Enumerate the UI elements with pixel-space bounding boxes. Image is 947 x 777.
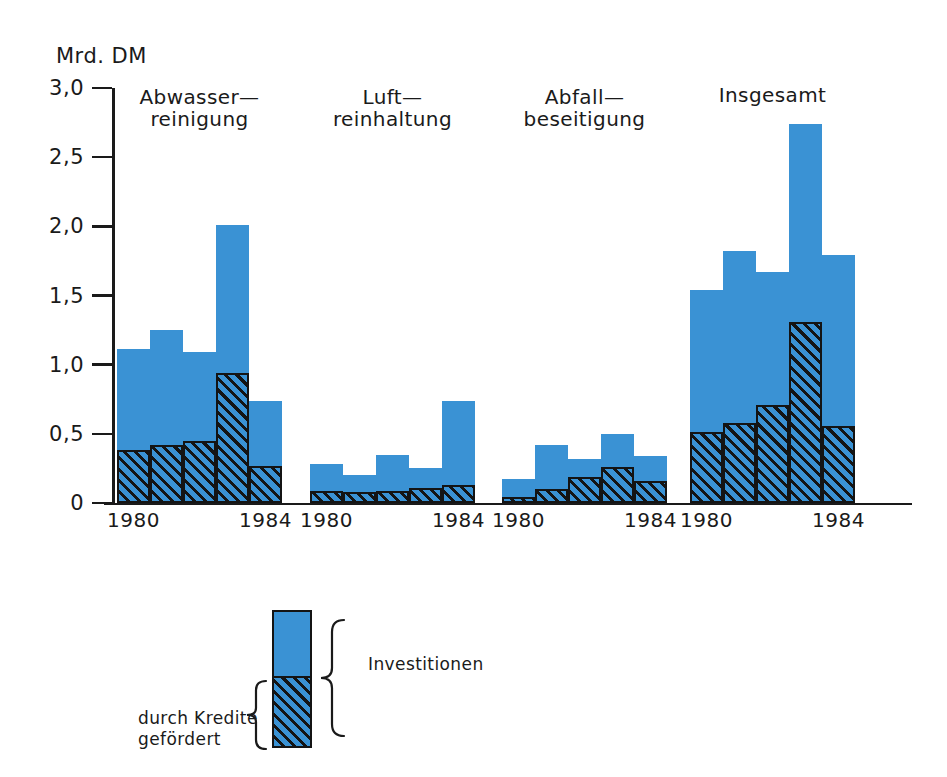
- bar-segment-gefoerdert: [568, 477, 601, 503]
- x-label-abfallbeseitigung-1980: 1980: [479, 508, 559, 532]
- y-tick-label: 0,5: [49, 422, 84, 446]
- bar-segment-gefoerdert: [409, 488, 442, 503]
- bar-segment-gefoerdert: [183, 441, 216, 503]
- chart-legend: Investitionen durch Kredite gefördert: [0, 596, 947, 766]
- bar-segment-gefoerdert: [535, 489, 568, 503]
- x-label-insgesamt-1984: 1984: [799, 508, 879, 532]
- bar-segment-gefoerdert: [690, 432, 723, 503]
- y-tick-0-5: 0,5: [92, 433, 112, 436]
- bar-segment-gefoerdert: [117, 450, 150, 503]
- y-tick-label: 0: [70, 491, 84, 515]
- y-tick-label: 3,0: [49, 76, 84, 100]
- y-tick-2-0: 2,0: [92, 225, 112, 228]
- y-tick-label: 2,5: [49, 145, 84, 169]
- y-tick-label: 1,0: [49, 353, 84, 377]
- bar-segment-gefoerdert: [442, 485, 475, 503]
- group-title-abwasserreinigung: Abwasser— reinigung: [90, 86, 310, 131]
- group-title-abfallbeseitigung: Abfall— beseitigung: [475, 86, 695, 131]
- legend-swatch-gefoerdert: [272, 676, 312, 748]
- y-axis-line: [112, 88, 115, 503]
- y-tick-label: 1,5: [49, 284, 84, 308]
- x-label-abwasserreinigung-1980: 1980: [94, 508, 174, 532]
- bar-segment-gefoerdert: [822, 426, 855, 503]
- legend-label-investitionen: Investitionen: [368, 654, 484, 675]
- brace-investitionen-icon: [318, 618, 348, 738]
- legend-label-gefoerdert: durch Kredite gefördert: [138, 708, 258, 751]
- x-label-insgesamt-1980: 1980: [667, 508, 747, 532]
- group-title-insgesamt: Insgesamt: [663, 84, 883, 106]
- x-label-luftreinhaltung-1980: 1980: [287, 508, 367, 532]
- y-tick-1-5: 1,5: [92, 294, 112, 297]
- bar-segment-gefoerdert: [216, 373, 249, 503]
- chart-page: Mrd. DM 00,51,01,52,02,53,0 Abwasser— re…: [0, 0, 947, 777]
- bar-segment-gefoerdert: [502, 497, 535, 503]
- bar-segment-gefoerdert: [343, 492, 376, 503]
- bar-segment-gefoerdert: [634, 481, 667, 503]
- bar-segment-gefoerdert: [723, 423, 756, 503]
- bar-segment-gefoerdert: [789, 322, 822, 503]
- bar-segment-gefoerdert: [150, 445, 183, 503]
- group-title-luftreinhaltung: Luft— reinhaltung: [283, 86, 503, 131]
- y-tick-2-5: 2,5: [92, 156, 112, 159]
- bar-segment-gefoerdert: [601, 467, 634, 503]
- bar-segment-gefoerdert: [249, 466, 282, 503]
- bar-segment-gefoerdert: [756, 405, 789, 503]
- bar-segment-gefoerdert: [376, 491, 409, 503]
- y-axis-title: Mrd. DM: [56, 44, 147, 68]
- bar-segment-gefoerdert: [310, 491, 343, 503]
- y-tick-label: 2,0: [49, 214, 84, 238]
- legend-swatch-investitionen: [272, 610, 312, 748]
- y-tick-0: 0: [92, 502, 112, 505]
- plot-area: 00,51,01,52,02,53,0: [112, 88, 912, 503]
- y-tick-1-0: 1,0: [92, 363, 112, 366]
